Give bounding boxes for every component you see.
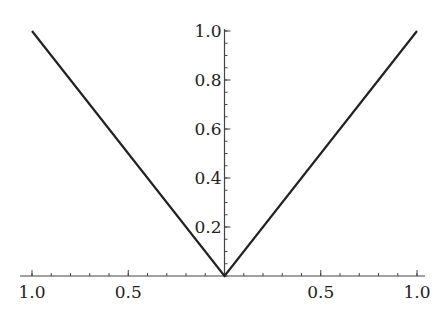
x-tick-labels: 1.00.50.51.0 xyxy=(18,282,430,302)
y-tick-label: 1.0 xyxy=(194,21,221,41)
x-tick-label: 1.0 xyxy=(403,282,430,302)
y-axis xyxy=(225,29,231,276)
chart: 1.00.50.51.0 0.20.40.60.81.0 xyxy=(0,0,445,316)
y-tick-label: 0.4 xyxy=(194,168,221,188)
y-tick-label: 0.8 xyxy=(194,70,221,90)
y-tick-labels: 0.20.40.60.81.0 xyxy=(194,21,221,237)
x-tick-label: 1.0 xyxy=(18,282,45,302)
y-tick-label: 0.2 xyxy=(194,217,221,237)
x-tick-label: 0.5 xyxy=(307,282,334,302)
y-tick-label: 0.6 xyxy=(194,119,221,139)
x-tick-label: 0.5 xyxy=(115,282,142,302)
